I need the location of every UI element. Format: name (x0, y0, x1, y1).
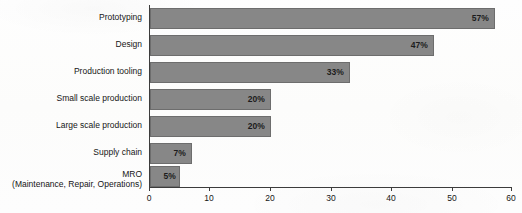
bar-row[interactable]: 20% (150, 116, 271, 137)
category-label-supply-chain: Supply chain (0, 147, 142, 157)
category-label-production-tooling: Production tooling (0, 66, 142, 76)
x-tick-mark (209, 187, 210, 191)
bar-value-label: 47% (411, 35, 428, 56)
x-tick-label: 0 (147, 193, 152, 203)
x-tick-mark (331, 187, 332, 191)
plot-area: 57% 47% 33% 20% 20% 7% 5% 0 (149, 5, 512, 188)
x-tick-mark (270, 187, 271, 191)
category-sublabel-text: (Maintenance, Repair, Operations) (0, 179, 142, 189)
bar-value-label: 57% (472, 8, 489, 29)
category-label-text: Supply chain (93, 147, 142, 157)
bar-value-label: 33% (327, 62, 344, 83)
bar-value-label: 7% (174, 143, 187, 164)
bar-chart: Prototyping Design Production tooling Sm… (0, 0, 522, 213)
x-tick-mark (149, 187, 150, 191)
x-tick-mark (391, 187, 392, 191)
category-label-small-scale-production: Small scale production (0, 93, 142, 103)
x-tick-mark (511, 187, 512, 191)
category-label-design: Design (0, 39, 142, 49)
category-label-text: Design (116, 39, 142, 49)
bar-value-label: 5% (164, 166, 177, 187)
category-label-text: Prototyping (99, 12, 142, 22)
bar-value-label: 20% (248, 116, 265, 137)
bar-row[interactable]: 7% (150, 143, 192, 164)
bar-production-tooling[interactable] (150, 62, 350, 83)
category-label-prototyping: Prototyping (0, 12, 142, 22)
category-label-large-scale-production: Large scale production (0, 120, 142, 130)
bar-row[interactable]: 20% (150, 89, 271, 110)
bar-row[interactable]: 33% (150, 62, 350, 83)
bar-design[interactable] (150, 35, 434, 56)
x-tick-label: 10 (204, 193, 213, 203)
x-tick-label: 30 (326, 193, 335, 203)
category-label-text: MRO (122, 169, 142, 179)
bar-row[interactable]: 57% (150, 8, 495, 29)
x-tick-label: 50 (447, 193, 456, 203)
x-tick-label: 20 (265, 193, 274, 203)
x-tick-mark (452, 187, 453, 191)
x-tick-label: 60 (506, 193, 515, 203)
bar-prototyping[interactable] (150, 8, 495, 29)
bar-value-label: 20% (248, 89, 265, 110)
x-tick-label: 40 (386, 193, 395, 203)
bar-row[interactable]: 47% (150, 35, 434, 56)
category-label-mro: MRO (Maintenance, Repair, Operations) (0, 169, 142, 189)
category-label-text: Large scale production (56, 120, 142, 130)
category-label-text: Production tooling (74, 66, 142, 76)
category-label-text: Small scale production (56, 93, 142, 103)
bar-row[interactable]: 5% (150, 166, 180, 187)
